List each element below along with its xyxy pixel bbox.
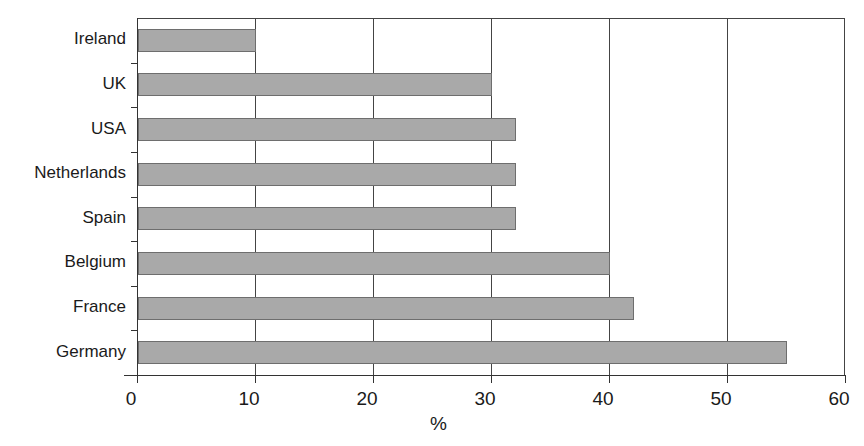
y-tick-label: France bbox=[73, 297, 126, 317]
x-tick-label: 30 bbox=[465, 388, 505, 410]
x-tick bbox=[255, 375, 256, 383]
x-axis bbox=[124, 375, 846, 376]
x-tick-label: 10 bbox=[229, 388, 269, 410]
x-axis-title: % bbox=[430, 413, 447, 435]
y-tick-label: UK bbox=[102, 74, 126, 94]
x-tick bbox=[137, 375, 138, 383]
bar-ireland bbox=[138, 29, 256, 52]
y-tick-label: Belgium bbox=[65, 252, 126, 272]
bar-france bbox=[138, 297, 634, 320]
x-tick-label: 50 bbox=[701, 388, 741, 410]
bar-netherlands bbox=[138, 163, 516, 186]
y-tick-label: Netherlands bbox=[34, 163, 126, 183]
y-axis bbox=[137, 18, 138, 376]
gridline bbox=[255, 18, 256, 375]
y-tick-label: USA bbox=[91, 119, 126, 139]
bar-germany bbox=[138, 341, 787, 364]
y-tick-label: Spain bbox=[83, 208, 126, 228]
x-tick-label: 60 bbox=[819, 388, 859, 410]
bar-spain bbox=[138, 207, 516, 230]
x-tick-label: 0 bbox=[111, 388, 151, 410]
x-tick-label: 20 bbox=[347, 388, 387, 410]
gridline bbox=[491, 18, 492, 375]
bar-belgium bbox=[138, 252, 610, 275]
x-tick bbox=[727, 375, 728, 383]
x-tick bbox=[609, 375, 610, 383]
gridline bbox=[609, 18, 610, 375]
x-tick bbox=[373, 375, 374, 383]
bar-usa bbox=[138, 118, 516, 141]
gridline bbox=[727, 18, 728, 375]
x-tick bbox=[491, 375, 492, 383]
y-tick-label: Germany bbox=[56, 342, 126, 362]
bar-uk bbox=[138, 73, 492, 96]
x-tick bbox=[845, 375, 846, 383]
gridline bbox=[373, 18, 374, 375]
x-tick-label: 40 bbox=[583, 388, 623, 410]
y-tick-label: Ireland bbox=[74, 29, 126, 49]
bar-chart: IrelandUKUSANetherlandsSpainBelgiumFranc… bbox=[0, 0, 864, 446]
